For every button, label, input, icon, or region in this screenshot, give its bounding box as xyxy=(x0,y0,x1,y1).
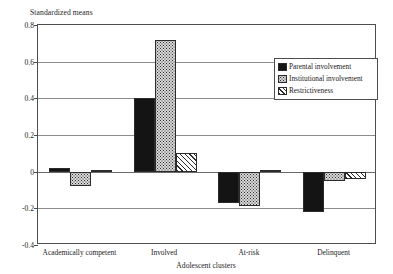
gridline xyxy=(38,135,375,136)
legend-item-institutional-involvement: Institutional involvement xyxy=(278,73,374,84)
y-tick-mark xyxy=(34,135,38,136)
y-tick-mark xyxy=(34,245,38,246)
bar xyxy=(176,153,197,171)
legend-item-parental-involvement: Parental involvement xyxy=(278,61,374,72)
bar xyxy=(155,40,176,172)
bar xyxy=(324,172,345,181)
x-tick-label: Involved xyxy=(151,248,177,257)
gridline xyxy=(38,208,375,209)
bar xyxy=(239,172,260,207)
x-axis-title: Adolescent clusters xyxy=(176,261,235,270)
y-tick-label: 0 xyxy=(30,167,34,176)
legend-label-restrictiveness: Restrictiveness xyxy=(289,87,333,94)
bar xyxy=(49,168,70,172)
legend-label-institutional-involvement: Institutional involvement xyxy=(289,75,363,82)
x-tick-label: At-risk xyxy=(238,248,259,257)
y-tick-label: -0.2 xyxy=(22,204,34,213)
y-tick-mark xyxy=(34,98,38,99)
y-axis-caption: Standardized means xyxy=(30,8,93,17)
bar xyxy=(70,172,91,187)
x-tick-label: Academically competent xyxy=(43,248,117,257)
bar xyxy=(91,170,112,172)
legend-swatch-dotted-icon xyxy=(278,75,287,83)
y-tick-label: -0.4 xyxy=(22,241,34,250)
legend-swatch-solid-icon xyxy=(278,63,287,71)
plot-area: 0.80.60.40.20-0.2-0.4 xyxy=(37,24,376,244)
legend-label-parental-involvement: Parental involvement xyxy=(289,63,351,70)
y-tick-label: 0.2 xyxy=(25,131,35,140)
bar xyxy=(260,170,281,172)
y-tick-mark xyxy=(34,25,38,26)
legend-swatch-hatched-icon xyxy=(278,87,287,95)
y-tick-mark xyxy=(34,172,38,173)
x-tick-label: Delinquent xyxy=(317,248,350,257)
y-tick-mark xyxy=(34,208,38,209)
y-tick-label: 0.6 xyxy=(25,57,35,66)
bar xyxy=(218,172,239,203)
legend-item-restrictiveness: Restrictiveness xyxy=(278,85,374,96)
bar xyxy=(303,172,324,212)
bar xyxy=(134,98,155,171)
bar-chart-figure: Standardized means 0.80.60.40.20-0.2-0.4… xyxy=(0,0,393,274)
bar xyxy=(345,172,366,179)
y-tick-label: 0.8 xyxy=(25,21,35,30)
chart-legend: Parental involvement Institutional invol… xyxy=(274,58,378,100)
y-tick-label: 0.4 xyxy=(25,94,35,103)
y-tick-mark xyxy=(34,62,38,63)
